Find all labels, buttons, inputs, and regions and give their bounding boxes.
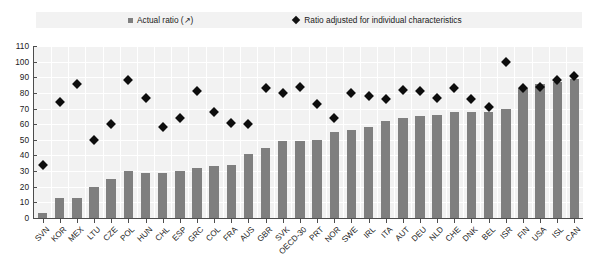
marker-svn: [38, 160, 48, 170]
marker-nld: [432, 93, 442, 103]
legend-item-adjusted-ratio: Ratio adjusted for individual characteri…: [293, 15, 461, 25]
bar-deu: [415, 116, 424, 218]
x-axis-tick-mark: [386, 219, 387, 223]
x-axis-tick-mark: [557, 219, 558, 223]
marker-dnk: [467, 94, 477, 104]
x-axis-tick-mark: [231, 219, 232, 223]
y-axis-tick-label: 80: [3, 89, 29, 97]
bar-chl: [158, 173, 167, 218]
x-axis-tick-mark: [266, 219, 267, 223]
marker-bel: [484, 102, 494, 112]
marker-cze: [106, 119, 116, 129]
marker-esp: [175, 113, 185, 123]
y-axis-tick-label: 70: [3, 105, 29, 113]
y-axis-tick-mark: [33, 202, 37, 203]
y-axis-tick-mark: [33, 155, 37, 156]
bar-usa: [535, 84, 544, 218]
bar-hun: [141, 173, 150, 218]
y-axis-tick-mark: [33, 218, 37, 219]
marker-hun: [141, 93, 151, 103]
marker-col: [209, 107, 219, 117]
marker-nor: [329, 113, 339, 123]
bar-col: [209, 166, 218, 218]
y-axis-tick-label: 20: [3, 183, 29, 191]
marker-swe: [346, 88, 356, 98]
bar-bel: [484, 112, 493, 218]
x-axis-tick-mark: [454, 219, 455, 223]
x-axis-tick-mark: [403, 219, 404, 223]
bar-esp: [175, 171, 184, 218]
bar-oecd-30: [295, 141, 304, 218]
x-axis-tick-label: IRL: [362, 225, 377, 240]
x-axis-tick-mark: [214, 219, 215, 223]
y-axis-tick-label: 100: [3, 58, 29, 66]
x-axis-tick-mark: [77, 219, 78, 223]
marker-prt: [312, 99, 322, 109]
bar-gbr: [261, 148, 270, 218]
bar-swe: [347, 130, 356, 218]
x-axis-tick-mark: [540, 219, 541, 223]
x-axis-tick-mark: [317, 219, 318, 223]
x-axis-tick-mark: [111, 219, 112, 223]
marker-che: [449, 83, 459, 93]
y-axis-tick-mark: [33, 124, 37, 125]
legend-item-actual-ratio: Actual ratio (↗): [128, 15, 193, 25]
bar-nld: [432, 115, 441, 218]
bar-cze: [106, 179, 115, 218]
chart-legend: Actual ratio (↗) Ratio adjusted for indi…: [36, 12, 582, 28]
x-axis-tick-label: SVN: [33, 225, 51, 243]
bar-aut: [398, 118, 407, 218]
y-axis-tick-mark: [33, 46, 37, 47]
marker-pol: [123, 75, 133, 85]
x-axis-tick-mark: [163, 219, 164, 223]
chart-figure: Actual ratio (↗) Ratio adjusted for indi…: [0, 0, 602, 274]
y-axis-tick-mark: [33, 93, 37, 94]
bar-fra: [227, 165, 236, 218]
x-axis-tick-mark: [197, 219, 198, 223]
bar-svk: [278, 141, 287, 218]
x-axis-tick-mark: [248, 219, 249, 223]
x-axis-tick-mark: [180, 219, 181, 223]
x-axis-tick-mark: [523, 219, 524, 223]
marker-deu: [415, 86, 425, 96]
bar-isl: [553, 82, 562, 218]
marker-chl: [158, 122, 168, 132]
x-axis-tick-mark: [351, 219, 352, 223]
x-axis-tick-mark: [128, 219, 129, 223]
legend-label-adjusted-ratio: Ratio adjusted for individual characteri…: [304, 15, 461, 25]
x-axis-tick-mark: [283, 219, 284, 223]
x-axis-tick-mark: [420, 219, 421, 223]
marker-grc: [192, 86, 202, 96]
marker-kor: [55, 97, 65, 107]
marker-isr: [501, 57, 511, 67]
y-axis-tick-mark: [33, 77, 37, 78]
y-axis-tick-label: 40: [3, 151, 29, 159]
x-axis-tick-mark: [437, 219, 438, 223]
x-axis-tick-mark: [506, 219, 507, 223]
x-axis-tick-mark: [471, 219, 472, 223]
x-axis-tick-mark: [489, 219, 490, 223]
marker-oecd-30: [295, 82, 305, 92]
y-axis-tick-mark: [33, 140, 37, 141]
square-marker-icon: [128, 18, 133, 23]
marker-ita: [381, 94, 391, 104]
x-axis-tick-label: ISL: [551, 225, 566, 240]
marker-aut: [398, 85, 408, 95]
y-axis-tick-mark: [33, 109, 37, 110]
data-series-layer: [34, 46, 582, 218]
marker-irl: [364, 91, 374, 101]
y-axis-tick-mark: [33, 187, 37, 188]
y-axis-tick-label: 90: [3, 73, 29, 81]
y-axis-tick-label: 50: [3, 136, 29, 144]
y-axis-tick-label: 30: [3, 167, 29, 175]
marker-svk: [278, 88, 288, 98]
bar-isr: [501, 109, 510, 218]
y-axis-tick-label: 60: [3, 120, 29, 128]
x-axis-tick-mark: [334, 219, 335, 223]
bar-che: [450, 112, 459, 218]
x-axis-tick-mark: [300, 219, 301, 223]
bar-irl: [364, 127, 373, 218]
y-axis-tick-mark: [33, 171, 37, 172]
bar-can: [570, 79, 579, 218]
x-axis-tick-mark: [146, 219, 147, 223]
